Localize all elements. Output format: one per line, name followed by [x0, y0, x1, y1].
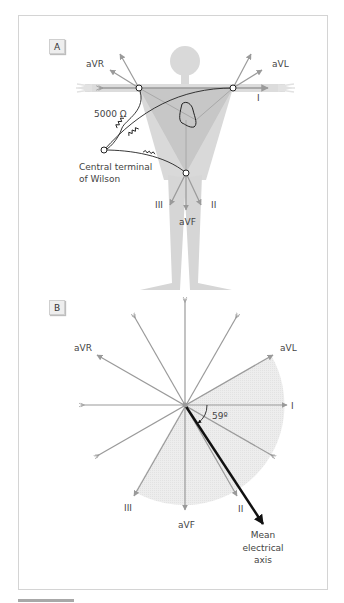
a-label-ii: II — [211, 200, 216, 210]
left-arm-electrode — [230, 85, 236, 91]
right-arm-electrode — [136, 85, 142, 91]
a-label-avl: aVL — [272, 59, 289, 69]
b-label-avr: aVR — [74, 343, 92, 353]
b-label-iii: III — [124, 503, 132, 513]
b-label-avf: aVF — [178, 520, 195, 530]
left-leg-electrode — [183, 170, 189, 176]
terminal-label-1: Central terminal — [79, 162, 152, 172]
angle-label: 59º — [212, 411, 228, 421]
axis-label-2: electrical — [242, 543, 283, 553]
a-label-avr: aVR — [86, 59, 104, 69]
central-terminal-node — [101, 147, 107, 153]
a-label-i: I — [257, 93, 260, 103]
a-label-avf: aVF — [179, 217, 196, 227]
axis-label-3: axis — [254, 555, 272, 565]
axis-label-1: Mean — [251, 530, 276, 540]
b-label-avl: aVL — [280, 343, 297, 353]
b-label-i: I — [291, 401, 294, 411]
a-label-iii: III — [155, 200, 163, 210]
ecg-diagram: aVR aVL I 5000 Ω Central terminal of Wil… — [0, 0, 344, 603]
bottom-rule — [18, 599, 74, 602]
normal-axis-sector — [135, 355, 284, 505]
resistor-label: 5000 Ω — [94, 109, 127, 119]
b-label-ii: II — [238, 504, 243, 514]
terminal-label-2: of Wilson — [79, 174, 120, 184]
